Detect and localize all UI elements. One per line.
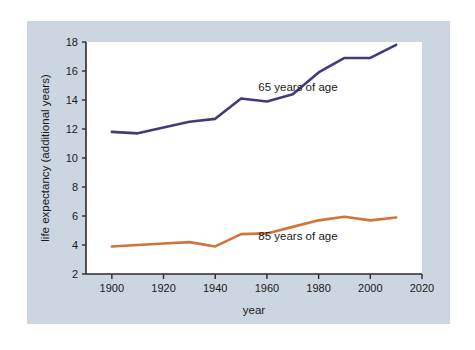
- line-chart: 24681012141618 1900192019401960198020002…: [27, 21, 450, 324]
- x-tick-label: 1900: [100, 282, 124, 294]
- plot-area-background: [86, 42, 422, 274]
- y-tick-label: 16: [66, 65, 78, 77]
- x-tick-label: 2000: [358, 282, 382, 294]
- x-axis: 1900192019401960198020002020: [86, 274, 434, 294]
- y-tick-label: 14: [66, 94, 78, 106]
- x-tick-label: 1980: [306, 282, 330, 294]
- y-tick-label: 6: [72, 210, 78, 222]
- x-tick-label: 2020: [410, 282, 434, 294]
- x-tick-label: 1960: [255, 282, 279, 294]
- y-axis-ticks: 24681012141618: [66, 36, 86, 280]
- x-axis-ticks: 1900192019401960198020002020: [100, 274, 435, 294]
- y-tick-label: 4: [72, 239, 78, 251]
- y-tick-label: 10: [66, 152, 78, 164]
- x-tick-label: 1940: [203, 282, 227, 294]
- y-axis-title: life expectancy (additional years): [39, 74, 51, 242]
- x-tick-label: 1920: [151, 282, 175, 294]
- figure-root: 24681012141618 1900192019401960198020002…: [0, 0, 475, 350]
- y-tick-label: 18: [66, 36, 78, 48]
- series-annotation-65: 65 years of age: [258, 81, 337, 93]
- chart-panel: 24681012141618 1900192019401960198020002…: [27, 21, 450, 324]
- x-axis-title: year: [243, 304, 266, 316]
- y-tick-label: 12: [66, 123, 78, 135]
- y-tick-label: 8: [72, 181, 78, 193]
- series-annotation-85: 85 years of age: [258, 230, 337, 242]
- y-tick-label: 2: [72, 268, 78, 280]
- y-axis: 24681012141618: [66, 36, 86, 280]
